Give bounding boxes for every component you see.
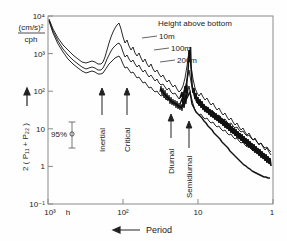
annotation-label-inertial: Inertial [98,128,107,152]
annotation-label-diurnal: Diurnal [167,148,176,174]
x-ticklabel-10: 10 [194,208,203,217]
x-ticklabel-1: 1 [270,208,275,217]
y-ticklabel-10e4: 10⁴ [33,12,46,21]
x-unit-hours: h [66,208,70,217]
chart-svg: 10⁴ 10³ 10² 10 1 10⁻¹ (cm/s)² cph 2 ( P₁… [0,0,287,241]
spectrum-figure: 10⁴ 10³ 10² 10 1 10⁻¹ (cm/s)² cph 2 ( P₁… [0,0,287,241]
y-ticklabel-10e3: 10³ [33,50,45,59]
x-axis-label: Period [146,225,172,235]
confidence-label: 95% [51,130,67,139]
legend-title: Height above bottom [158,19,232,28]
annotation-label-semidiurnal: Semidiurnal [185,156,194,198]
x-ticklabel-10e2: 10² [117,208,129,217]
y-axis-label: 2 ( P₁₁ + P₂₂ ) [21,123,30,171]
legend-label-10m: 10m [159,32,175,41]
x-ticklabel-10e3: 10³ [44,208,56,217]
y-unit-numerator: (cm/s)² [19,23,44,32]
y-unit-denominator: cph [25,35,38,44]
legend-label-200m: 200m [177,56,197,65]
annotation-label-critical: Critical [123,127,132,152]
y-ticklabel-10e-1: 10⁻¹ [29,200,45,209]
legend-label-100m: 100m [171,44,191,53]
y-ticklabel-1: 1 [41,162,46,171]
y-ticklabel-10: 10 [36,125,45,134]
y-ticklabel-10e2: 10² [33,87,45,96]
